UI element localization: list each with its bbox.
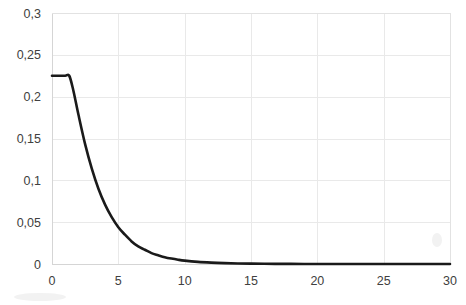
scan-artifact [432, 233, 442, 247]
y-tick-label: 0,05 [17, 216, 41, 230]
chart-container: 00,050,10,150,20,250,3 051015202530 [0, 0, 466, 305]
y-tick-label: 0,1 [24, 174, 41, 188]
scan-artifact-bottom [14, 293, 66, 301]
x-tick-label: 30 [443, 274, 457, 288]
x-tick-label: 20 [310, 274, 324, 288]
x-tick-label: 15 [244, 274, 258, 288]
x-tick-label: 25 [377, 274, 391, 288]
x-tick-label: 0 [49, 274, 56, 288]
line-chart: 00,050,10,150,20,250,3 051015202530 [0, 0, 466, 305]
chart-background [0, 0, 466, 305]
y-tick-label: 0,15 [17, 132, 41, 146]
y-tick-label: 0,2 [24, 90, 41, 104]
y-tick-label: 0 [34, 258, 41, 272]
x-tick-label: 5 [115, 274, 122, 288]
x-tick-label: 10 [178, 274, 192, 288]
y-tick-label: 0,25 [17, 48, 41, 62]
y-tick-label: 0,3 [24, 7, 41, 21]
